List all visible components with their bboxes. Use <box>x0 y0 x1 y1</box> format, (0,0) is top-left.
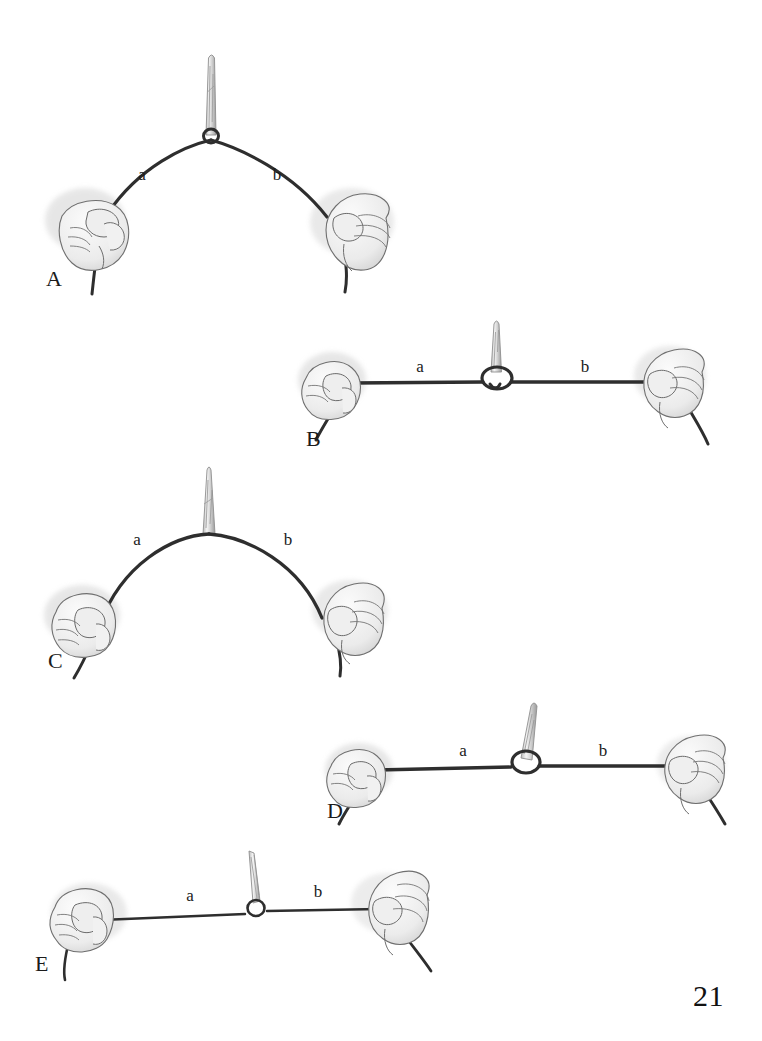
left-hand <box>302 362 361 420</box>
panel-letter-e: E <box>35 953 49 975</box>
panel-a: a b A <box>0 40 430 290</box>
needle-holder-icon <box>206 55 216 135</box>
segment-label-b: b <box>314 882 323 901</box>
segment-label-b: b <box>599 741 608 760</box>
segment-label-a: a <box>416 357 424 376</box>
panel-e: a b E <box>35 845 455 980</box>
segment-label-a: a <box>138 165 146 184</box>
suture-strand-b <box>211 140 327 217</box>
panel-c-illustration: a b <box>0 460 420 680</box>
segment-label-a: a <box>186 886 194 905</box>
left-hand <box>59 201 128 271</box>
panel-a-illustration: a b <box>0 40 430 290</box>
segment-label-b: b <box>284 530 293 549</box>
figure-sheet: a b A <box>0 0 762 1041</box>
suture-strand-a <box>352 382 483 383</box>
needle-holder-icon <box>491 321 502 372</box>
panel-d-illustration: a b <box>315 700 735 830</box>
panel-b: a b B <box>290 310 720 450</box>
segment-label-a: a <box>459 741 467 760</box>
fine-forceps-icon <box>249 851 260 903</box>
panel-letter-d: D <box>327 800 343 822</box>
panel-c: a b C <box>0 460 420 680</box>
suture-strand-b <box>209 534 322 618</box>
page-number: 21 <box>693 979 724 1013</box>
suture-strand-a <box>377 767 511 770</box>
segment-label-a: a <box>133 530 141 549</box>
needle-holder-icon <box>203 467 215 534</box>
right-hand <box>665 735 725 814</box>
suture-strand-a <box>108 140 211 213</box>
right-hand <box>644 349 704 428</box>
panel-e-illustration: a b <box>35 845 455 980</box>
segment-label-b: b <box>273 165 282 184</box>
panel-d: a b D <box>315 700 735 830</box>
left-hand <box>50 889 114 952</box>
panel-b-illustration: a b <box>290 310 720 450</box>
panel-letter-a: A <box>46 268 62 290</box>
panel-letter-b: B <box>306 428 321 450</box>
suture-loop-cross <box>490 384 500 388</box>
panel-letter-c: C <box>48 650 63 672</box>
segment-label-b: b <box>581 357 590 376</box>
